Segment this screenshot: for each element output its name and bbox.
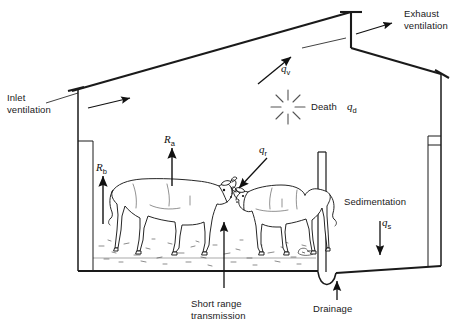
roof-right-slope [351, 48, 441, 74]
qr-arrow [239, 158, 267, 188]
floor-right-section [336, 266, 441, 273]
drainage-channel [318, 272, 336, 285]
inlet-ventilation-label: Inlet ventilation [7, 92, 51, 115]
qd-symbol: qd [347, 100, 357, 115]
qr-symbol: qr [259, 143, 267, 158]
cow-icon-right [231, 185, 337, 255]
exhaust-ridge-leader [302, 38, 346, 48]
Ra-symbol: Ra [164, 133, 175, 148]
qs-symbol: qs [382, 216, 391, 231]
barn-cross-section-drawing [0, 0, 471, 331]
drainage-label: Drainage [313, 303, 352, 315]
burst-icon [271, 90, 305, 124]
Rb-symbol: Rb [96, 161, 107, 176]
qv-symbol: qv [281, 62, 290, 77]
inlet-ventilation-arrow [88, 98, 130, 108]
sedimentation-label: Sedimentation [344, 196, 406, 208]
roof-left-slope [72, 12, 351, 91]
roof-right-eave [435, 70, 449, 78]
wall-left-inner-panel [78, 141, 93, 271]
diagram-canvas: Inlet ventilation Exhaust ventilation Se… [0, 0, 471, 331]
exhaust-ventilation-label: Exhaust ventilation [404, 8, 448, 31]
short-range-transmission-label: Short range transmission [191, 298, 246, 321]
death-label: Death [311, 101, 337, 113]
exhaust-ventilation-arrow [356, 23, 392, 34]
